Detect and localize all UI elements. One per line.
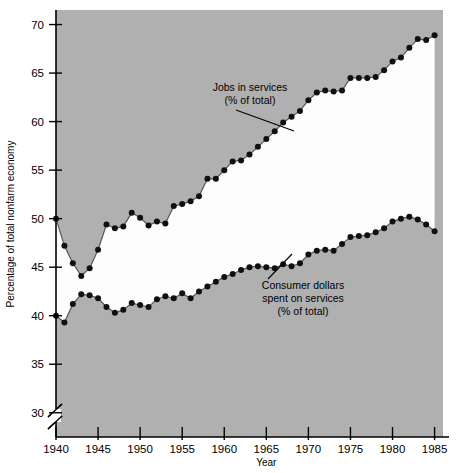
data-point (415, 36, 421, 42)
jobs-annotation-line2: (% of total) (225, 94, 276, 106)
x-tick-label: 1940 (43, 443, 69, 455)
y-tick-label: 35 (31, 358, 44, 370)
data-point (314, 248, 320, 254)
data-point (390, 219, 396, 225)
data-point (120, 307, 126, 313)
y-tick-label: 45 (31, 261, 44, 273)
data-point (70, 301, 76, 307)
data-point (146, 304, 152, 310)
data-point (238, 157, 244, 163)
x-tick-label: 1985 (422, 443, 448, 455)
x-tick-label: 1945 (85, 443, 111, 455)
data-point (171, 203, 177, 209)
data-point (146, 222, 152, 228)
data-point (381, 225, 387, 231)
data-point (406, 214, 412, 220)
data-point (188, 198, 194, 204)
data-point (87, 265, 93, 271)
data-point (347, 234, 353, 240)
x-tick-label: 1950 (127, 443, 153, 455)
data-point (272, 128, 278, 134)
data-point (423, 37, 429, 43)
data-point (356, 233, 362, 239)
data-point (406, 45, 412, 51)
consumer-annotation-line3: (% of total) (278, 305, 329, 317)
data-point (432, 228, 438, 234)
data-point (247, 264, 253, 270)
jobs-annotation-line1: Jobs in services (213, 81, 288, 93)
data-point (339, 241, 345, 247)
data-point (87, 292, 93, 298)
data-point (230, 158, 236, 164)
data-point (322, 88, 328, 94)
y-tick-label: 65 (31, 67, 44, 79)
data-point (221, 167, 227, 173)
data-point (61, 243, 67, 249)
y-tick-label: 55 (31, 164, 44, 176)
data-point (103, 221, 109, 227)
data-point (289, 114, 295, 120)
data-point (280, 261, 286, 267)
data-point (432, 32, 438, 38)
data-point (112, 310, 118, 316)
x-tick-label: 1980 (380, 443, 406, 455)
data-point (179, 290, 185, 296)
consumer-annotation-line2: spent on services (262, 292, 344, 304)
data-point (263, 264, 269, 270)
data-point (129, 210, 135, 216)
data-point (423, 221, 429, 227)
data-point (95, 247, 101, 253)
data-point (398, 216, 404, 222)
data-point (154, 219, 160, 225)
y-tick-label: 30 (31, 407, 44, 419)
data-point (373, 74, 379, 80)
data-point (103, 304, 109, 310)
data-point (364, 232, 370, 238)
data-point (70, 260, 76, 266)
data-point (314, 89, 320, 95)
data-point (61, 319, 67, 325)
data-point (179, 201, 185, 207)
data-point (381, 67, 387, 73)
data-point (247, 152, 253, 158)
data-point (221, 274, 227, 280)
data-point (137, 215, 143, 221)
data-point (129, 300, 135, 306)
x-tick-label: 1975 (338, 443, 364, 455)
data-point (162, 221, 168, 227)
data-point (373, 229, 379, 235)
data-point (204, 284, 210, 290)
data-point (280, 120, 286, 126)
data-point (322, 247, 328, 253)
data-point (398, 55, 404, 61)
x-tick-label: 1970 (296, 443, 322, 455)
data-point (137, 302, 143, 308)
data-point (162, 293, 168, 299)
y-tick-label: 40 (31, 310, 44, 322)
data-point (112, 225, 118, 231)
data-point (415, 217, 421, 223)
x-tick-label: 1960 (211, 443, 237, 455)
data-point (196, 193, 202, 199)
data-point (263, 136, 269, 142)
y-axis-title: Percentage of total nonfarm economy (5, 141, 16, 308)
data-point (390, 58, 396, 64)
data-point (305, 252, 311, 258)
consumer-annotation-line1: Consumer dollars (262, 279, 344, 291)
data-point (331, 248, 337, 254)
data-point (154, 296, 160, 302)
data-point (171, 295, 177, 301)
x-tick-label: 1955 (169, 443, 195, 455)
data-point (297, 260, 303, 266)
data-point (188, 295, 194, 301)
data-point (120, 223, 126, 229)
data-point (364, 75, 370, 81)
data-point (255, 144, 261, 150)
data-point (347, 75, 353, 81)
y-tick-label: 60 (31, 116, 44, 128)
data-point (204, 176, 210, 182)
data-point (331, 89, 337, 95)
x-axis-title: Year (256, 457, 277, 468)
data-point (230, 271, 236, 277)
data-point (297, 108, 303, 114)
